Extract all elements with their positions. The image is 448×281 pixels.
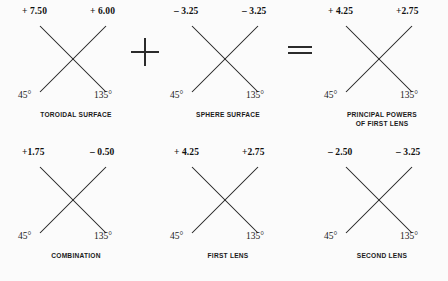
axis-label-45: 45° xyxy=(324,231,337,241)
power-value-45: + 4.25 xyxy=(174,147,199,157)
power-value-45: – 3.25 xyxy=(174,6,198,16)
power-value-135: + 6.00 xyxy=(90,6,115,16)
cross-caption: TOROIDAL SURFACE xyxy=(6,110,146,119)
axis-label-45: 45° xyxy=(170,90,183,100)
diagram-row-first-lens: + 7.50 + 6.00 45° 135° TOROIDAL SURFACE … xyxy=(0,0,448,140)
cross-lines-icon xyxy=(36,22,110,96)
cross-caption: SPHERE SURFACE xyxy=(158,110,298,119)
power-value-45: – 2.50 xyxy=(328,147,352,157)
diagram-row-second-lens: +1.75 – 0.50 45° 135° COMBINATION + 4.25… xyxy=(0,141,448,281)
optical-cross-first-lens: + 4.25 +2.75 45° 135° FIRST LENS xyxy=(158,141,298,281)
axis-label-135: 135° xyxy=(94,231,112,241)
cross-caption: PRINCIPAL POWERS OF FIRST LENS xyxy=(312,110,448,128)
power-value-45: +1.75 xyxy=(22,147,45,157)
cross-lines-icon xyxy=(342,163,416,237)
axis-label-135: 135° xyxy=(246,90,264,100)
cross-lines-icon xyxy=(36,163,110,237)
optical-cross-toroidal-surface: + 7.50 + 6.00 45° 135° TOROIDAL SURFACE xyxy=(6,0,146,140)
cross-lines-icon xyxy=(188,163,262,237)
axis-label-45: 45° xyxy=(170,231,183,241)
axis-label-45: 45° xyxy=(324,90,337,100)
power-value-45: + 4.25 xyxy=(328,6,353,16)
axis-label-135: 135° xyxy=(400,90,418,100)
axis-label-135: 135° xyxy=(400,231,418,241)
optical-cross-combination: +1.75 – 0.50 45° 135° COMBINATION xyxy=(6,141,146,281)
cross-lines-icon xyxy=(342,22,416,96)
optical-cross-principal-powers-first-lens: + 4.25 +2.75 45° 135° PRINCIPAL POWERS O… xyxy=(312,0,448,140)
equals-operator-icon xyxy=(288,46,312,58)
optical-cross-diagram: + 7.50 + 6.00 45° 135° TOROIDAL SURFACE … xyxy=(0,0,448,281)
power-value-45: + 7.50 xyxy=(22,6,47,16)
power-value-135: – 3.25 xyxy=(242,6,266,16)
cross-caption: SECOND LENS xyxy=(312,251,448,260)
axis-label-45: 45° xyxy=(18,90,31,100)
axis-label-135: 135° xyxy=(246,231,264,241)
power-value-135: – 3.25 xyxy=(396,147,420,157)
plus-operator-icon xyxy=(131,38,159,66)
axis-label-135: 135° xyxy=(94,90,112,100)
optical-cross-second-lens: – 2.50 – 3.25 45° 135° SECOND LENS xyxy=(312,141,448,281)
axis-label-45: 45° xyxy=(18,231,31,241)
cross-caption: FIRST LENS xyxy=(158,251,298,260)
power-value-135: +2.75 xyxy=(396,6,419,16)
power-value-135: – 0.50 xyxy=(90,147,114,157)
cross-caption: COMBINATION xyxy=(6,251,146,260)
cross-lines-icon xyxy=(188,22,262,96)
optical-cross-sphere-surface: – 3.25 – 3.25 45° 135° SPHERE SURFACE xyxy=(158,0,298,140)
power-value-135: +2.75 xyxy=(242,147,265,157)
